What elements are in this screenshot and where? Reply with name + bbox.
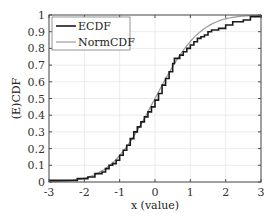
y-tick-label: 0.3 [28,126,46,139]
x-tick-label: 2 [222,186,229,199]
y-tick-label: 0.9 [28,26,46,39]
y-tick-label: 0.2 [28,143,46,156]
x-tick-label: -2 [79,186,90,199]
y-tick-label: 1 [38,9,45,22]
legend: ECDFNormCDF [52,17,135,50]
y-tick-label: 0.4 [28,109,46,122]
y-tick-label: 0.1 [28,159,46,172]
y-tick-label: 0.7 [28,59,46,72]
x-tick-label: 3 [258,186,265,199]
y-tick-label: 0 [38,176,45,189]
legend-label-normcdf: NormCDF [78,36,135,49]
x-tick-label: 0 [152,186,159,199]
x-tick-label: 1 [187,186,194,199]
ecdf-chart: -3-2-1012300.10.20.30.40.50.60.70.80.91 … [0,0,275,218]
y-axis-label: (E)CDF [10,77,23,119]
y-tick-label: 0.6 [28,76,46,89]
x-tick-label: -3 [44,186,55,199]
legend-label-ecdf: ECDF [78,20,111,33]
x-tick-label: -1 [114,186,125,199]
x-axis-label: x (value) [131,199,179,212]
y-tick-label: 0.5 [28,93,46,106]
y-tick-label: 0.8 [28,42,46,55]
